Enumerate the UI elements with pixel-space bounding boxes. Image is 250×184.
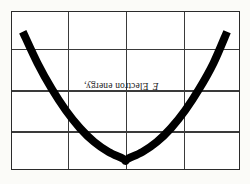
gridline-horizontal-1 [12, 49, 239, 50]
gridline-horizontal-2 [12, 90, 239, 91]
gridline-horizontal-3 [12, 131, 239, 132]
electron-energy-figure: Electron energy, E [0, 0, 250, 184]
plot-frame [11, 11, 240, 170]
